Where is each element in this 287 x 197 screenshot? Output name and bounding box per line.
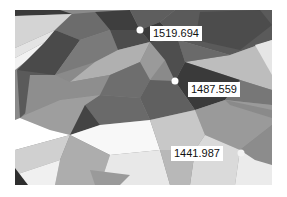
point-marker-2[interactable]: [172, 78, 179, 85]
tin-triangles: [15, 10, 272, 185]
tin-surface-map: [0, 0, 287, 197]
elevation-label-3: 1441.987: [171, 146, 223, 161]
point-marker-1[interactable]: [137, 27, 144, 34]
elevation-label-2: 1487.559: [188, 82, 240, 97]
elevation-label-1: 1519.694: [150, 26, 202, 41]
point-marker-3[interactable]: [238, 150, 245, 157]
